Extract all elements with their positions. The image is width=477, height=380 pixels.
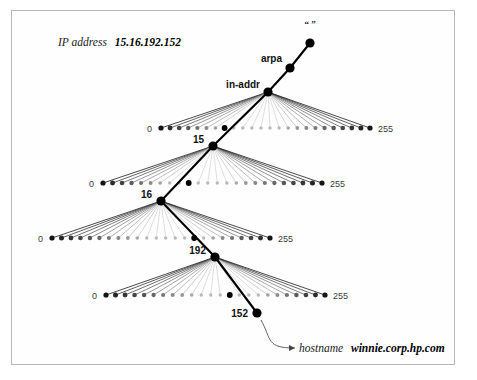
fan-node [313,293,318,298]
octet2-node-label: 16 [141,189,153,200]
dns-tree-diagram: 0255025502550255 arpain-addr1516192152 “… [0,0,477,380]
fan-min-label: 0 [92,291,97,301]
fan-node [277,126,280,129]
fan-node [250,126,253,129]
fan-node [129,181,133,185]
fan-15: 0255 [89,146,345,189]
ip-address-caption-prefix: IP address [57,36,107,48]
fan-node [142,293,146,297]
fan-node [202,236,205,239]
fan-node [59,235,64,240]
octet4-node-label: 152 [231,308,248,319]
fan-node [177,126,182,131]
fan-node [221,236,225,240]
fan-edge [161,201,232,238]
fan-groups: 0255025502550255 [38,92,393,301]
fan-node [340,126,345,131]
arpa-node-label: arpa [261,53,283,64]
fan-node [195,126,199,130]
fan-node [225,181,228,184]
fan-node [49,235,54,240]
fan-node-selected [222,125,228,131]
fan-node [116,236,120,240]
fan-node [197,181,200,184]
fan-node [319,180,324,185]
hostname-leader-line [261,320,295,348]
fan-edge [90,201,161,238]
fan-edge [268,92,370,128]
fan-node [200,293,203,296]
arpa-node-dot [285,63,294,72]
fan-node [180,293,184,297]
fan-node [219,293,222,296]
figure-page: 0255025502550255 arpain-addr1516192152 “… [0,0,477,380]
fan-node [164,236,167,239]
fan-node [230,236,234,240]
fan-edge [213,146,293,183]
octet3-node-label: 192 [189,245,206,256]
fan-node [120,181,125,186]
fan-node [214,126,218,130]
fan-node [161,293,165,297]
fan-node [247,293,250,296]
fan-edge [268,92,325,128]
hostname-caption-prefix: hostname [299,342,343,354]
fan-min-label: 0 [38,234,43,244]
fan-edge [151,146,213,183]
fan-edge [170,92,268,128]
fan-node [113,292,118,297]
fan-edge [125,257,215,295]
fan-node [241,126,244,129]
fan-edge [99,201,161,238]
fan-node [322,292,327,297]
fan-node [294,293,298,297]
fan-node [301,181,306,186]
fan-node [216,181,219,184]
fan-node [282,181,286,185]
fan-node [158,181,162,185]
fan-16: 0255 [38,201,293,244]
fan-node [257,293,260,296]
fan-node [275,293,279,297]
fan-edge [132,146,213,183]
fan-node [151,293,155,297]
fan-node [103,292,108,297]
fan-in-addr: 0255 [147,92,393,134]
fan-node [322,126,326,130]
fan-node [206,181,209,184]
fan-min-label: 0 [147,124,152,134]
fan-node [110,181,115,186]
fan-node [132,293,137,298]
hostname-leader-group [261,320,295,348]
fan-node [123,293,128,298]
fan-node [183,236,186,239]
octet1-node-label: 15 [193,134,205,145]
fan-node [349,126,354,131]
fan-node [168,181,171,184]
fan-max-label: 255 [378,124,393,134]
spine-edge [161,201,215,257]
fan-node [358,125,363,130]
fan-node [295,126,299,130]
fan-node [158,125,163,130]
octet2-node-dot [156,196,165,205]
fan-node [126,236,130,240]
fan-edge [268,92,352,128]
fan-node [259,126,262,129]
fan-edge [215,257,325,295]
root-node-dot [305,38,314,47]
fan-edge [154,257,215,295]
octet1-node-dot [208,141,217,150]
fan-node [313,126,317,130]
fan-node [145,236,148,239]
fan-edge [135,257,215,295]
fan-node [253,181,257,185]
fan-node [244,181,248,185]
fan-edge [113,146,213,183]
fan-edge [268,92,361,128]
fan-node [136,236,140,240]
fan-node [258,236,263,241]
fan-node [267,235,272,240]
spine-edge [290,43,310,68]
fan-node [235,181,239,185]
